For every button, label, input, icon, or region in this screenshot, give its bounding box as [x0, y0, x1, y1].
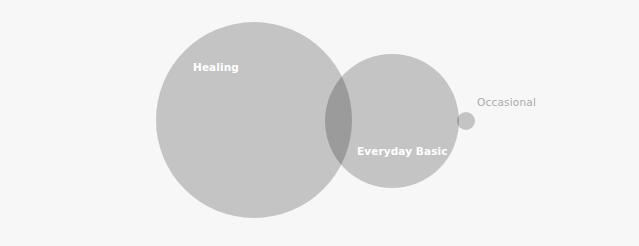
occasional-label: Occasional: [477, 97, 536, 108]
healing-label: Healing: [193, 62, 239, 73]
everyday-basic-label: Everyday Basic: [357, 146, 448, 157]
healing-circle: [156, 22, 352, 218]
venn-diagram: Healing Everyday Basic Occasional: [0, 0, 639, 246]
occasional-circle: [457, 112, 475, 130]
venn-canvas: [0, 0, 639, 246]
